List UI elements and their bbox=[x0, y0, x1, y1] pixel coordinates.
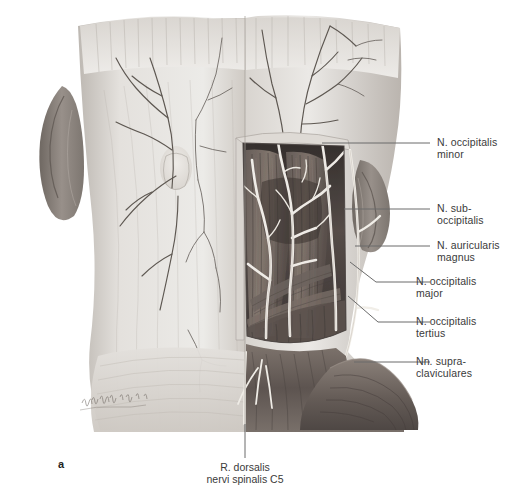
left-intact-side bbox=[39, 16, 245, 432]
label-n-auricularis-magnus: N. auricularis magnus bbox=[437, 239, 500, 263]
anatomical-plate: N. occipitalis minor N. sub- occipitalis… bbox=[0, 0, 521, 494]
label-nn-supraclaviculares: Nn. supra- claviculares bbox=[416, 355, 472, 379]
label-n-suboccipitalis: N. sub- occipitalis bbox=[437, 202, 484, 226]
right-dissected-side bbox=[236, 15, 418, 432]
left-ear bbox=[39, 86, 84, 220]
label-n-occipitalis-major: N. occipitalis major bbox=[416, 275, 476, 299]
label-n-occipitalis-minor: N. occipitalis minor bbox=[437, 136, 497, 160]
dissection-window bbox=[238, 138, 352, 351]
label-n-occipitalis-tertius: N. occipitalis tertius bbox=[416, 315, 476, 339]
caption-r-dorsalis-c5: R. dorsalis nervi spinalis C5 bbox=[165, 461, 325, 485]
panel-label-a: a bbox=[58, 458, 64, 470]
